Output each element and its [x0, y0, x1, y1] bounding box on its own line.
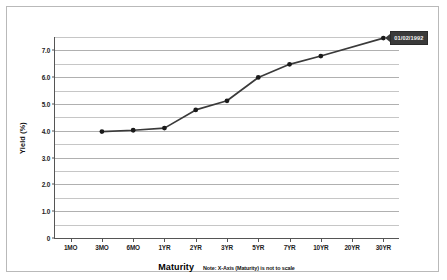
x-tick-mark	[352, 238, 353, 242]
x-tick-label: 3YR	[221, 244, 233, 251]
x-tick-mark	[196, 238, 197, 242]
data-point-marker	[162, 126, 167, 131]
x-tick-label: 30YR	[376, 244, 391, 251]
x-tick-label: 10YR	[313, 244, 328, 251]
x-tick-mark	[227, 238, 228, 242]
y-tick-label: 3.0	[42, 154, 50, 161]
y-tick-label: 6.0	[42, 74, 50, 81]
data-point-marker	[256, 75, 261, 80]
x-axis-note: Note: X-Axis (Maturity) is not to scale	[203, 265, 295, 271]
y-tick-label: 4.0	[42, 127, 50, 134]
plot-area: 01.02.03.04.05.06.07.0 1MO3MO6MO1YR2YR3Y…	[54, 37, 399, 239]
x-tick-mark	[102, 238, 103, 242]
y-tick-label: 1.0	[42, 208, 50, 215]
x-tick-label: 1MO	[64, 244, 77, 251]
x-tick-label: 3MO	[95, 244, 108, 251]
x-tick-label: 6MO	[127, 244, 140, 251]
y-axis-title: Yield (%)	[18, 122, 27, 154]
y-tick-label: 5.0	[42, 101, 50, 108]
x-tick-mark	[290, 238, 291, 242]
data-point-marker	[131, 128, 136, 133]
y-tick-label: 2.0	[42, 181, 50, 188]
data-point-marker	[193, 108, 198, 113]
x-tick-label: 7YR	[284, 244, 296, 251]
x-tick-label: 2YR	[190, 244, 202, 251]
y-tick-label: 0	[47, 235, 50, 242]
x-tick-mark	[258, 238, 259, 242]
data-point-marker	[318, 54, 323, 59]
x-axis-title-row: Maturity Note: X-Axis (Maturity) is not …	[54, 262, 399, 272]
x-tick-mark	[164, 238, 165, 242]
y-tick-label: 7.0	[42, 47, 50, 54]
x-tick-mark	[133, 238, 134, 242]
x-tick-label: 1YR	[159, 244, 171, 251]
series-line-01021992	[55, 37, 399, 238]
x-tick-label: 5YR	[252, 244, 264, 251]
x-axis-title: Maturity	[158, 262, 194, 272]
x-tick-mark	[383, 238, 384, 242]
data-point-marker	[287, 62, 292, 67]
x-tick-label: 20YR	[344, 244, 359, 251]
series-line	[102, 38, 383, 132]
data-point-marker	[100, 129, 105, 134]
x-tick-mark	[321, 238, 322, 242]
x-tick-mark	[71, 238, 72, 242]
data-point-marker	[225, 98, 230, 103]
chart-frame: Yield (%) 01.02.03.04.05.06.07.0 1MO3MO6…	[6, 6, 439, 272]
data-point-marker	[381, 36, 386, 41]
